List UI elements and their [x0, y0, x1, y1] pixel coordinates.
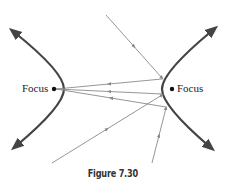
left-focus-label: Focus [22, 82, 48, 94]
incoming-rays [52, 15, 166, 163]
left-focus-point [52, 87, 56, 91]
right-focus-label: Focus [177, 82, 203, 94]
figure-canvas: Focus Focus Figure 7.30 [0, 0, 225, 193]
figure-caption: Figure 7.30 [25, 167, 201, 179]
hyperbola-diagram [0, 0, 225, 193]
right-focus-point [170, 87, 174, 91]
